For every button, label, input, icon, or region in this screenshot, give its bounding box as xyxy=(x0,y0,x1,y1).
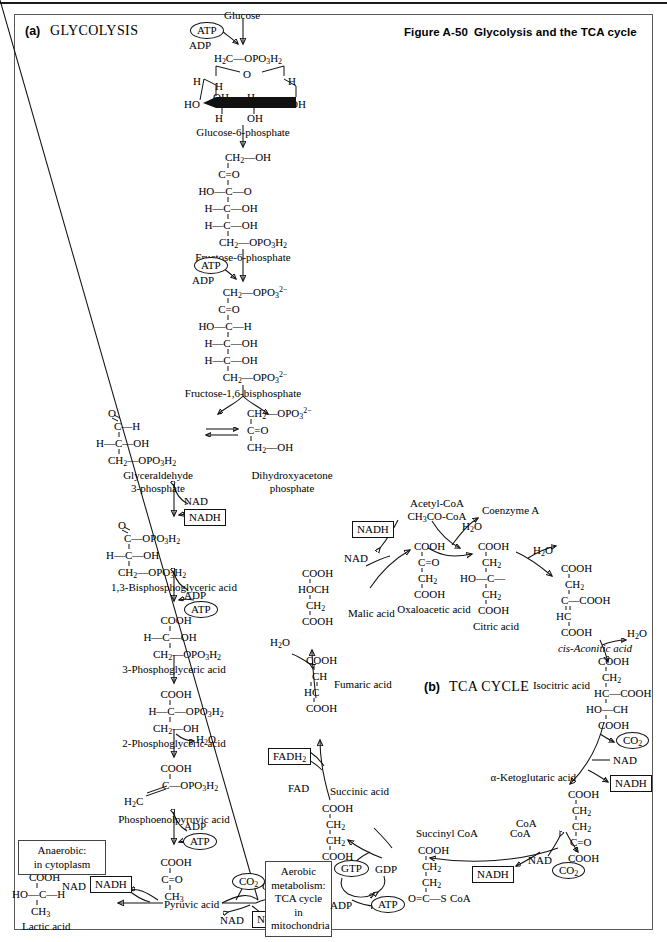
adp-label-pgk: ADP xyxy=(184,590,206,601)
g3p-line-1: C—H xyxy=(114,421,140,432)
fumarate-line-2: CH xyxy=(312,671,327,682)
atp-oval-pfk: ATP xyxy=(194,257,228,274)
nad-label-mdh: NAD xyxy=(344,553,368,564)
pyruvate-line-1: COOH xyxy=(160,857,191,868)
gtp-oval: GTP xyxy=(334,860,369,877)
malate-line-2: HOCH xyxy=(298,584,329,595)
water-label-aconitase-2: H2O xyxy=(627,628,647,639)
citrate-line-1: COOH xyxy=(478,541,509,552)
bpg-carbonyl-o: O xyxy=(118,520,126,531)
oaa-line-1: COOH xyxy=(414,541,445,552)
fbp-line-3: HO—C—H xyxy=(198,321,251,332)
g3p-name-line2: 3-phosphate xyxy=(131,483,185,494)
fbp-line-5: H—C—OH xyxy=(204,355,257,366)
dhap-name-line2: phosphate xyxy=(270,483,315,494)
water-label-citrate-synthase: H2O xyxy=(462,521,482,532)
akg-line-3: CH2 xyxy=(572,821,591,832)
fumarate-line-4: COOH xyxy=(306,703,337,714)
isocitrate-line-2: CH2 xyxy=(602,672,621,683)
water-label-fumarase: H2O xyxy=(270,637,290,648)
gdp-label: GDP xyxy=(375,864,397,875)
water-label-aconitase-1: H2O xyxy=(533,545,553,556)
g6p-h-inner: H xyxy=(247,92,255,103)
g6p-oh-inner: OH xyxy=(213,92,229,103)
acetyl-coa-label: Acetyl-CoA xyxy=(410,498,464,509)
panel-a-tag: (a) xyxy=(25,26,40,37)
atp-oval-hexokinase: ATP xyxy=(190,22,224,39)
nadh-box-kgdh: NADH xyxy=(472,866,514,883)
aerobic-note-line4: mitochondria xyxy=(271,919,326,933)
f6p-line-3: HO—C—O xyxy=(198,186,251,197)
g3p-line-3: CH2—OPO3H2 xyxy=(108,455,176,466)
f6p-line-2: C=O xyxy=(218,169,239,180)
nad-label-pdh: NAD xyxy=(220,915,244,926)
isocitrate-line-1: COOH xyxy=(598,656,629,667)
pg2-line-1: COOH xyxy=(160,689,191,700)
co2-oval-pdh: CO2 xyxy=(232,873,265,890)
isocitrate-line-3: HC—COOH xyxy=(594,688,651,699)
dhap-line-2: C=O xyxy=(247,425,268,436)
succinyl-coa-name: Succinyl CoA xyxy=(416,828,478,839)
anaerobic-note: Anaerobic: in cytoplasm xyxy=(18,840,106,875)
oaa-line-2: C=O xyxy=(418,557,439,568)
g6p-h-bottom: H xyxy=(215,113,223,124)
oaa-line-3: CH2 xyxy=(418,573,437,584)
fadh2-box: FADH2 xyxy=(268,748,311,765)
malate-line-4: COOH xyxy=(302,616,333,627)
figure-title: Glycolysis and the TCA cycle xyxy=(474,27,637,38)
bpg-line-1: C—OPO3H2 xyxy=(124,533,180,544)
atp-oval-pk: ATP xyxy=(183,833,217,850)
adp-label-scs: ADP xyxy=(330,900,352,911)
isocitrate-name: Isocitric acid xyxy=(533,680,590,691)
nad-label-ldh: NAD xyxy=(62,881,86,892)
succinyl-line-5: CoA xyxy=(450,893,471,904)
pg3-name: 3-Phosphoglyceric acid xyxy=(122,664,226,675)
succinate-line-3: CH2 xyxy=(326,835,345,846)
g6p-oh-bottom: OH xyxy=(247,113,263,124)
pg3-line-3: CH2—OPO3H2 xyxy=(153,649,221,660)
isocitrate-line-4: HO—CH xyxy=(586,704,628,715)
nadh-box-idh: NADH xyxy=(610,775,652,792)
figure-number: Figure A-50 xyxy=(404,27,468,38)
adp-label-pk: ADP xyxy=(184,821,206,832)
citrate-line-5: COOH xyxy=(478,605,509,616)
aconitate-line-1: COOH xyxy=(561,563,592,574)
aerobic-note: Aerobic metabolism: TCA cycle in mitocho… xyxy=(265,861,332,937)
succinyl-line-4: O=C—S xyxy=(408,893,447,904)
adp-label-pfk: ADP xyxy=(192,275,214,286)
lactate-line-3: CH3 xyxy=(31,906,50,917)
aconitate-line-3: C—COOH xyxy=(561,595,611,606)
akg-line-2: CH2 xyxy=(572,805,591,816)
pg3-line-1: COOH xyxy=(160,615,191,626)
dhap-name-line1: Dihydroxyacetone xyxy=(251,470,332,481)
akg-line-1: COOH xyxy=(568,789,599,800)
figure-page: (a) GLYCOLYSIS Figure A-50 Glycolysis an… xyxy=(0,0,667,942)
lactate-name: Lactic acid xyxy=(22,921,71,932)
succinate-line-1: COOH xyxy=(322,803,353,814)
pep-line-cooh: COOH xyxy=(160,763,191,774)
citrate-line-3: HO—C— xyxy=(460,573,505,584)
fbp-line-6: CH2—OPO32− xyxy=(223,372,288,383)
pep-line-c: C—OPO3H2 xyxy=(162,780,218,791)
g6p-oh-right: OH xyxy=(290,99,306,110)
panel-b-tag: (b) xyxy=(424,682,440,693)
fad-label: FAD xyxy=(288,783,309,794)
malate-name: Malic acid xyxy=(348,608,395,619)
bpg-line-2: H—C—OH xyxy=(106,550,159,561)
fbp-line-1: CH2—OPO32− xyxy=(223,287,288,298)
g3p-line-2: H—C—OH xyxy=(96,438,149,449)
pg2-line-2: H—C—OPO3H2 xyxy=(148,706,223,717)
pep-line-ch2: H2C xyxy=(124,796,143,807)
g3p-name-line1: Glyceraldehyde xyxy=(123,470,193,481)
g6p-ho-left: HO xyxy=(184,99,200,110)
akg-line-4: C=O xyxy=(570,837,591,848)
g6p-ring-oxygen: O xyxy=(243,69,251,80)
atp-oval-scs: ATP xyxy=(371,896,405,913)
aconitate-line-2: CH2 xyxy=(565,579,584,590)
succinyl-line-3: CH2 xyxy=(422,877,441,888)
succinyl-line-2: CH2 xyxy=(422,861,441,872)
nad-label-kgdh: NAD xyxy=(528,855,552,866)
ketoglutarate-name: α-Ketoglutaric acid xyxy=(491,772,576,783)
succinyl-line-1: COOH xyxy=(418,845,449,856)
glucose-label: Glucose xyxy=(224,10,260,21)
